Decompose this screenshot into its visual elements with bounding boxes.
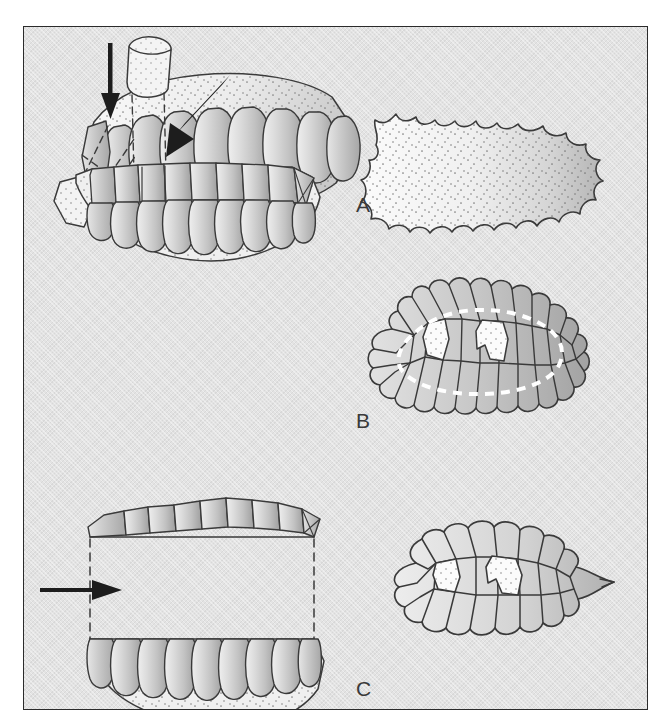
panel-c-exploded-view <box>40 498 324 710</box>
plate-row-c <box>87 639 321 700</box>
figure-plate: A B C <box>0 0 670 728</box>
panel-c-dorsal-view <box>395 521 614 635</box>
leader-lines-c <box>90 539 314 639</box>
figure-artwork <box>24 27 648 710</box>
arrow-right-c <box>40 580 122 600</box>
panel-b-dorsal-view <box>368 278 589 414</box>
plate-band-separated-c <box>88 498 320 537</box>
panel-label-a: A <box>356 193 371 217</box>
panel-c-artwork <box>40 498 614 710</box>
figure-frame: A B C <box>23 26 648 710</box>
panel-label-c: C <box>356 677 372 701</box>
plate-band-upper-b <box>90 163 314 205</box>
panel-a-dorsal-view <box>361 114 603 233</box>
panel-label-b: B <box>356 409 371 433</box>
plate-row-b <box>87 200 315 255</box>
